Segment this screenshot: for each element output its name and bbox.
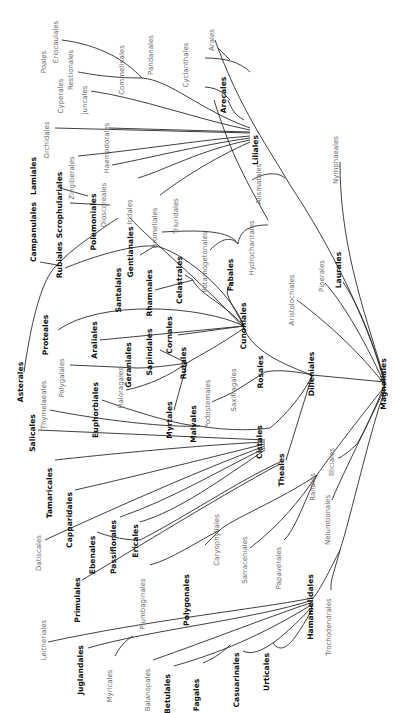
taxon-label-zingiberales: Zingiberales bbox=[68, 156, 76, 200]
taxon-label-trochodendrales: Trochodendrales bbox=[325, 598, 333, 657]
taxon-label-rosales: Rosales bbox=[256, 355, 265, 388]
taxon-label-haemodorales: Haemodorales bbox=[103, 122, 111, 173]
taxon-label-pandanales: Pandanales bbox=[147, 35, 155, 75]
taxon-label-liliales: Liliales bbox=[251, 134, 260, 165]
branch-line bbox=[55, 128, 250, 133]
taxon-label-passiflorales: Passiflorales bbox=[109, 519, 118, 574]
taxon-label-caryophyllales: Caryophyllales bbox=[213, 514, 221, 566]
branch-line bbox=[325, 283, 385, 385]
taxon-label-leitneriales: Leitneriales bbox=[40, 619, 48, 660]
branch-line bbox=[203, 645, 230, 663]
branch-line bbox=[220, 475, 317, 530]
taxon-label-fabales: Fabales bbox=[226, 258, 235, 291]
taxon-label-poales: Poales bbox=[40, 50, 48, 73]
taxon-label-campanulales: Campanulales bbox=[29, 202, 38, 262]
branch-line bbox=[243, 606, 313, 653]
taxon-label-restionales: Restionales bbox=[67, 50, 75, 90]
branch-line bbox=[120, 448, 265, 517]
taxon-label-celastrales: Celastrales bbox=[175, 256, 184, 304]
taxon-label-salicales: Salicales bbox=[28, 414, 37, 452]
taxon-label-ranales: Ranales bbox=[309, 473, 317, 501]
branch-line bbox=[155, 280, 193, 290]
taxon-label-illiciales: Illiciales bbox=[328, 448, 336, 476]
branch-line bbox=[138, 140, 250, 178]
taxon-labels: PoalesEriocaulalesRestionalesCyperalesJu… bbox=[16, 21, 388, 713]
taxon-label-araliales: Araliales bbox=[90, 321, 99, 359]
branch-line bbox=[88, 600, 313, 648]
taxon-label-santalales: Santalales bbox=[114, 267, 123, 312]
taxon-label-potamogetonales: Potamogetonales bbox=[201, 231, 209, 292]
branch-line bbox=[187, 328, 244, 363]
taxon-label-myricales: Myricales bbox=[106, 669, 114, 702]
taxon-label-nelumbonales: Nelumbonales bbox=[324, 495, 332, 545]
branch-line bbox=[205, 58, 250, 72]
tree-branches bbox=[24, 40, 385, 666]
taxon-label-lamiales: Lamiales bbox=[29, 157, 38, 195]
taxon-label-urticales: Urticales bbox=[262, 653, 271, 692]
taxon-label-bromeliales: Bromeliales bbox=[151, 207, 159, 248]
taxon-label-dilleniales: Dilleniales bbox=[307, 351, 316, 396]
branch-line bbox=[57, 218, 118, 265]
taxon-label-cistales: Cistales bbox=[255, 425, 264, 459]
taxon-label-alismatales: Alismatales bbox=[255, 163, 263, 204]
branch-line bbox=[48, 598, 313, 642]
taxon-label-datiscales: Datiscales bbox=[35, 535, 43, 571]
taxon-label-orchidales: Orchidales bbox=[43, 121, 51, 158]
branch-line bbox=[340, 162, 385, 380]
taxon-label-tamaricales: Tamaricales bbox=[45, 467, 54, 518]
branch-line bbox=[160, 142, 250, 195]
branch-line bbox=[313, 550, 340, 598]
taxon-label-aristolochiales: Aristolochiales bbox=[288, 274, 296, 325]
taxon-label-proteales: Proteales bbox=[41, 314, 50, 355]
taxon-label-arales: Arales bbox=[208, 29, 216, 51]
branch-line bbox=[45, 446, 265, 540]
taxon-label-ericales: Ericales bbox=[131, 524, 140, 558]
taxon-label-triuridales: Triuridales bbox=[172, 198, 180, 235]
branch-line bbox=[50, 410, 200, 426]
taxon-label-podostemales: Podostemales bbox=[204, 379, 212, 428]
taxon-label-piperales: Piperales bbox=[318, 260, 326, 292]
taxon-label-iridales: Iridales bbox=[126, 199, 134, 225]
branch-line bbox=[270, 376, 312, 428]
taxon-label-capparidales: Capparidales bbox=[65, 492, 74, 548]
branch-line bbox=[140, 450, 265, 522]
branch-line bbox=[228, 100, 244, 120]
taxon-label-laurales: Laurales bbox=[334, 251, 343, 288]
taxon-label-plumbaginales: Plumbaginales bbox=[139, 578, 147, 630]
taxon-label-hamamelidales: Hamamelidales bbox=[306, 574, 315, 640]
branch-line bbox=[38, 430, 265, 440]
taxon-label-sapindales: Sapindales bbox=[145, 328, 154, 375]
branch-line bbox=[210, 239, 238, 250]
branch-line bbox=[312, 375, 385, 382]
taxon-label-polemoniales: Polemoniales bbox=[89, 193, 98, 251]
taxon-label-cyperales: Cyperales bbox=[57, 78, 65, 113]
taxon-label-papaverales: Papaverales bbox=[275, 546, 283, 589]
branch-line bbox=[174, 604, 313, 666]
branch-line bbox=[338, 445, 356, 458]
taxon-label-commelinales: Commelinales bbox=[118, 45, 126, 95]
taxon-label-hydrocharitales: Hydrocharitales bbox=[248, 220, 256, 276]
branch-line bbox=[331, 550, 340, 590]
taxon-label-betulales: Betulales bbox=[163, 674, 172, 713]
taxon-label-ebenales: Ebenales bbox=[88, 535, 97, 574]
branch-line bbox=[78, 72, 142, 78]
taxon-label-eriocaulales: Eriocaulales bbox=[52, 21, 60, 64]
taxon-label-gentianales: Gentianales bbox=[126, 226, 135, 277]
taxon-label-primulales: Primulales bbox=[73, 577, 82, 623]
taxon-label-haloragales: Haloragales bbox=[117, 367, 125, 409]
taxon-label-arecales: Arecales bbox=[219, 76, 228, 113]
branch-line bbox=[65, 246, 155, 268]
taxon-label-scrophulariales: Scrophulariales bbox=[55, 171, 64, 238]
phylogenetic-tree-diagram: PoalesEriocaulalesRestionalesCyperalesJu… bbox=[0, 0, 395, 713]
branch-line bbox=[55, 442, 265, 460]
taxon-label-cunoniales: Cunoniales bbox=[239, 302, 248, 349]
taxon-label-theales: Theales bbox=[277, 453, 286, 487]
taxon-label-nymphaeales: Nymphaeales bbox=[332, 136, 340, 184]
taxon-label-euphorbiales: Euphorbiales bbox=[91, 382, 100, 438]
branch-line bbox=[75, 444, 265, 490]
taxon-label-magnoliales: Magnoliales bbox=[379, 358, 388, 410]
branch-line bbox=[178, 326, 244, 335]
taxon-label-polygalales: Polygalales bbox=[58, 358, 66, 398]
taxon-label-malvales: Malvales bbox=[189, 405, 198, 443]
taxon-label-myrtales: Myrtales bbox=[165, 401, 174, 439]
